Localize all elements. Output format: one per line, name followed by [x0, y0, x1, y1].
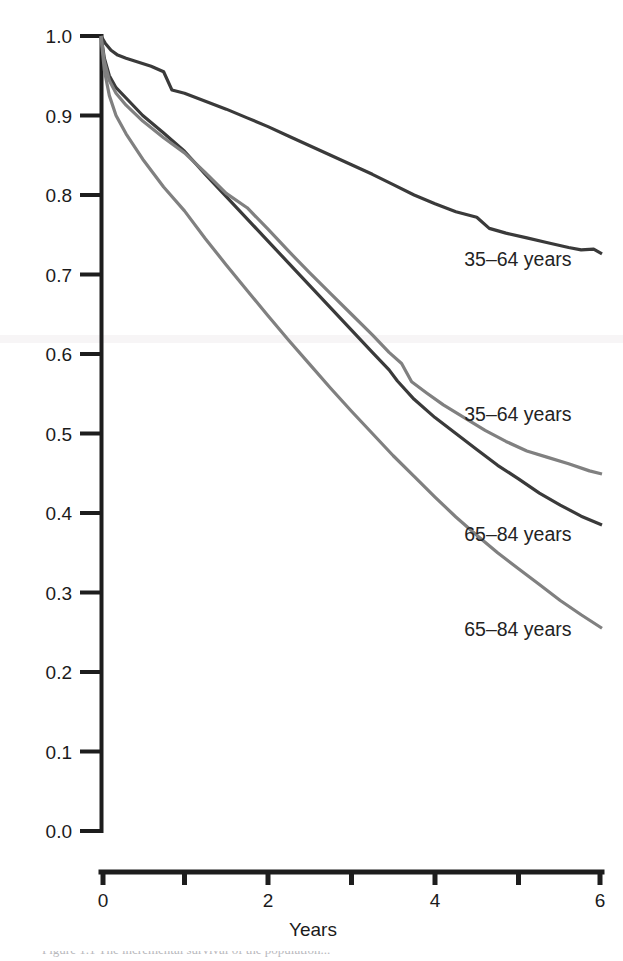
y-tick-label: 0.6 [46, 344, 72, 365]
y-tick-label: 0.7 [46, 265, 72, 286]
x-tick-label: 6 [595, 890, 606, 911]
y-tick-label: 0.5 [46, 424, 72, 445]
x-tick-label: 2 [263, 890, 274, 911]
series-label: 65–84 years [464, 618, 572, 640]
series-label: 35–64 years [464, 248, 572, 270]
y-tick-label: 0.9 [46, 106, 72, 127]
y-tick-label: 0.1 [46, 742, 72, 763]
figure-caption-strip: Figure 1.1 The incremental survival of t… [0, 951, 623, 961]
figure-caption: Figure 1.1 The incremental survival of t… [42, 951, 330, 958]
series-label: 65–84 years [464, 523, 572, 545]
y-tick-label: 0.8 [46, 185, 72, 206]
survival-curve-chart: 0.00.10.20.30.40.50.60.70.80.91.0 0246 3… [0, 0, 623, 961]
series-label: 35–64 years [464, 403, 572, 425]
y-tick-label: 0.4 [46, 503, 73, 524]
x-tick-label: 4 [430, 890, 441, 911]
figure-root: 0.00.10.20.30.40.50.60.70.80.91.0 0246 3… [0, 0, 623, 961]
y-tick-label: 1.0 [46, 26, 72, 47]
x-tick-label: 0 [98, 890, 109, 911]
chart-background [0, 0, 623, 961]
x-axis-title: Years [289, 919, 337, 940]
y-tick-label: 0.2 [46, 662, 72, 683]
scan-artifact-band [0, 335, 623, 343]
y-tick-label: 0.0 [46, 821, 72, 842]
y-tick-label: 0.3 [46, 583, 72, 604]
